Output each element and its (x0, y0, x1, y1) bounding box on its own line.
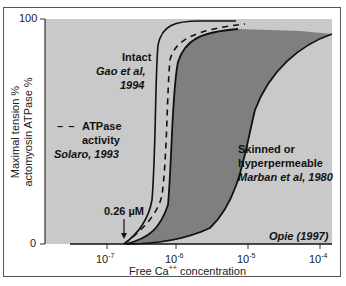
y-axis-label-line1: Maximal tension % (9, 77, 22, 186)
x-axis-label: Free Ca++ concentration (129, 264, 246, 277)
x-tick-label-4: 10-4 (309, 252, 327, 265)
skinned-citation: Marban et al, 1980 (238, 171, 333, 183)
y-tick-label-0: 0 (30, 237, 36, 249)
x-tick-label-1: 10-7 (96, 252, 114, 265)
intact-year: 1994 (120, 79, 144, 91)
skinned-label-line2: hyperpermeable (238, 157, 323, 169)
atpase-label-line2: activity (82, 134, 120, 146)
skinned-label: Skinned or (238, 143, 295, 155)
intact-citation: Gao et al, (96, 65, 146, 77)
threshold-label: 0.26 µM (104, 205, 144, 217)
y-axis-label: Maximal tension % actomyosin ATPase % (9, 77, 35, 186)
y-tick-label-100: 100 (19, 12, 37, 24)
atpase-legend-dash: – – (57, 120, 75, 132)
source-credit: Opie (1997) (269, 230, 328, 242)
atpase-label: ATPase (82, 120, 122, 132)
atpase-citation: Solaro, 1993 (54, 148, 119, 160)
intact-label: Intact (122, 51, 151, 63)
y-axis-label-line2: actomyosin ATPase % (22, 77, 35, 186)
